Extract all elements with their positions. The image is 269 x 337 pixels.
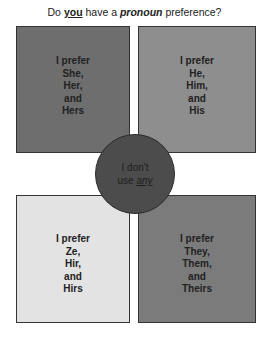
- option-line: He,: [189, 68, 205, 81]
- option-line: Him,: [186, 80, 208, 93]
- option-no-pronouns-circle[interactable]: I don't use any: [95, 134, 175, 214]
- option-line: They,: [184, 246, 209, 259]
- option-line: She,: [62, 68, 83, 81]
- option-line: and: [188, 271, 206, 284]
- option-line: and: [188, 93, 206, 106]
- option-line: Hir,: [65, 258, 81, 271]
- option-line: Ze,: [66, 246, 80, 259]
- option-line: I prefer: [180, 55, 214, 68]
- circle-emphasis-any: any: [136, 175, 152, 186]
- option-line: and: [64, 271, 82, 284]
- option-line: I prefer: [56, 233, 90, 246]
- circle-line: I don't: [122, 161, 149, 174]
- option-they-them-theirs[interactable]: I prefer They, Them, and Theirs: [138, 195, 256, 323]
- option-line: Theirs: [182, 283, 212, 296]
- option-line: His: [189, 105, 205, 118]
- option-line: I prefer: [56, 55, 90, 68]
- option-ze-hir-hirs[interactable]: I prefer Ze, Hir, and Hirs: [16, 195, 130, 323]
- circle-text: use: [117, 175, 136, 186]
- option-line: Her,: [64, 80, 83, 93]
- option-line: Hers: [62, 105, 84, 118]
- option-he-him-his[interactable]: I prefer He, Him, and His: [138, 26, 256, 153]
- option-line: and: [64, 93, 82, 106]
- title-emphasis-pronoun: pronoun: [120, 6, 163, 18]
- title-text: have a: [83, 6, 120, 18]
- title-emphasis-you: you: [64, 6, 83, 18]
- option-line: I prefer: [180, 233, 214, 246]
- option-line: Them,: [182, 258, 211, 271]
- option-she-her-hers[interactable]: I prefer She, Her, and Hers: [16, 26, 130, 153]
- circle-line: use any: [117, 174, 152, 187]
- title-text: Do: [48, 6, 64, 18]
- page-title: Do you have a pronoun preference?: [0, 6, 269, 18]
- option-line: Hirs: [63, 283, 82, 296]
- title-text: preference?: [163, 6, 222, 18]
